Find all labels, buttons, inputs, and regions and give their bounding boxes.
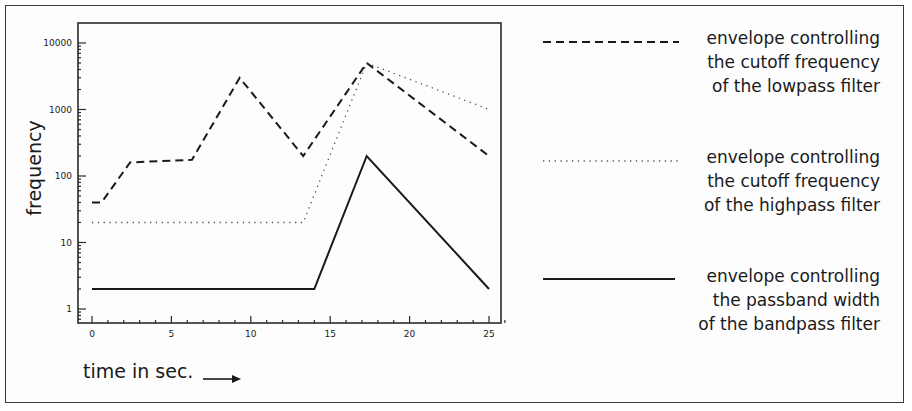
dotted-line-swatch-icon <box>543 159 679 163</box>
y-axis-label: frequency <box>23 120 45 215</box>
x-axis-label: time in sec. <box>83 360 193 382</box>
x-tick-label: 20 <box>404 329 416 339</box>
axes <box>78 23 505 323</box>
x-tick-label: 25 <box>483 329 494 339</box>
x-tick-label: 5 <box>169 329 175 339</box>
series-line-dashed <box>92 63 489 203</box>
series-line-dotted <box>92 63 489 223</box>
right-arrow-icon <box>203 366 241 376</box>
solid-line-swatch-icon <box>543 277 679 281</box>
legend-line: of the bandpass filter <box>698 312 880 336</box>
legend-line: envelope controlling <box>698 264 880 288</box>
y-tick-label: 100 <box>55 171 72 181</box>
x-axis-label-wrap: time in sec. <box>83 360 241 382</box>
plot-border <box>78 23 501 323</box>
series-lines <box>92 63 489 289</box>
legend-line: of the lowpass filter <box>707 74 880 98</box>
y-tick-labels: 110100100010000 <box>43 38 72 314</box>
x-tick-label: 0 <box>89 329 95 339</box>
legend-line: envelope controlling <box>704 145 880 169</box>
legend-line: the cutoff frequency <box>704 169 880 193</box>
legend-line: the cutoff frequency <box>707 50 880 74</box>
legend-line: envelope controlling <box>707 26 880 50</box>
x-tick-label: 15 <box>324 329 335 339</box>
y-tick-label: 1000 <box>49 105 72 115</box>
legend-line: the passband width <box>698 288 880 312</box>
x-tick-label: 10 <box>245 329 257 339</box>
y-tick-label: 1 <box>66 304 72 314</box>
y-tick-label: 10 <box>61 238 73 248</box>
legend-text-lowpass: envelope controlling the cutoff frequenc… <box>707 26 880 98</box>
dashed-line-swatch-icon <box>543 40 679 44</box>
x-tick-labels: 0510152025 <box>89 329 495 339</box>
legend-text-bandpass: envelope controlling the passband width … <box>698 264 880 336</box>
y-tick-label: 10000 <box>43 38 72 48</box>
legend-text-highpass: envelope controlling the cutoff frequenc… <box>704 145 880 217</box>
legend-line: of the highpass filter <box>704 193 880 217</box>
